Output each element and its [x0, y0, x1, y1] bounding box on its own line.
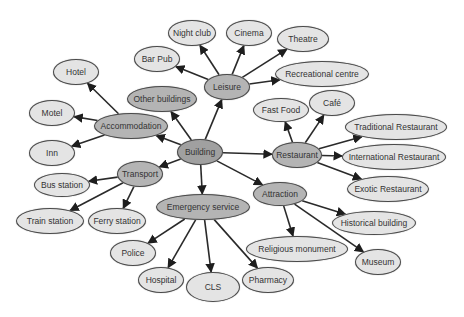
- node-label: Restaurant: [276, 150, 318, 160]
- edge-building-to-emergency-service: [201, 165, 203, 194]
- node-cinema[interactable]: Cinema: [226, 20, 272, 46]
- node-label: Hotel: [66, 67, 86, 77]
- node-label: Exotic Restaurant: [354, 184, 421, 194]
- node-other-buildings[interactable]: Other buildings: [127, 86, 197, 112]
- edge-restaurant-to-fast-food: [285, 122, 292, 142]
- node-label: Recreational centre: [285, 69, 359, 79]
- node-label: Cinema: [234, 28, 263, 38]
- building-taxonomy-diagram: BuildingLeisureOther buildingsAccommodat…: [0, 0, 464, 317]
- node-inn[interactable]: Inn: [29, 140, 75, 166]
- node-label: Accommodation: [101, 121, 162, 131]
- node-hotel[interactable]: Hotel: [53, 59, 99, 85]
- node-label: Religious monument: [258, 244, 335, 254]
- node-label: Museum: [362, 257, 395, 267]
- edge-emergency-service-to-police: [148, 219, 185, 243]
- node-religious-monument[interactable]: Religious monument: [246, 236, 348, 262]
- node-museum[interactable]: Museum: [355, 249, 401, 275]
- node-label: Ferry station: [93, 216, 140, 226]
- edge-building-to-attraction: [217, 161, 263, 185]
- edge-building-to-other-buildings: [171, 112, 191, 140]
- edge-accommodation-to-hotel: [87, 83, 118, 113]
- edge-accommodation-to-inn: [72, 135, 105, 146]
- node-label: Inn: [46, 148, 58, 158]
- node-bar-pub[interactable]: Bar Pub: [134, 46, 180, 72]
- edge-attraction-to-religious-monument: [284, 206, 293, 236]
- edge-building-to-accommodation: [156, 136, 181, 145]
- node-label: Pharmacy: [249, 275, 287, 285]
- edge-building-to-leisure: [205, 100, 221, 140]
- node-label: Other buildings: [133, 94, 190, 104]
- node-theatre[interactable]: Theatre: [277, 26, 329, 52]
- node-hospital[interactable]: Hospital: [138, 267, 184, 293]
- node-attraction[interactable]: Attraction: [253, 182, 307, 206]
- node-label: Traditional Restaurant: [354, 122, 437, 132]
- edge-emergency-service-to-cls: [205, 220, 212, 272]
- node-label: CLS: [205, 282, 222, 292]
- edge-building-to-transport: [159, 159, 180, 167]
- node-ferry-station[interactable]: Ferry station: [88, 208, 146, 234]
- edge-building-to-restaurant: [223, 153, 272, 155]
- node-pharmacy[interactable]: Pharmacy: [242, 267, 294, 293]
- edge-accommodation-to-motel: [74, 117, 97, 121]
- node-label: Fast Food: [262, 105, 300, 115]
- node-motel[interactable]: Motel: [29, 100, 75, 126]
- node-train-station[interactable]: Train station: [16, 208, 84, 234]
- edge-leisure-to-night-club: [200, 45, 219, 75]
- edge-transport-to-ferry-station: [123, 187, 134, 209]
- node-label: Hospital: [146, 275, 177, 285]
- node-label: Night club: [173, 28, 211, 38]
- node-label: International Restaurant: [349, 152, 440, 162]
- node-emergency-service[interactable]: Emergency service: [156, 194, 250, 220]
- node-police[interactable]: Police: [110, 240, 156, 266]
- node-label: Motel: [42, 108, 63, 118]
- node-night-club[interactable]: Night club: [168, 20, 216, 46]
- node-label: Building: [185, 147, 215, 157]
- edge-transport-to-bus-station: [89, 177, 118, 181]
- node-accommodation[interactable]: Accommodation: [94, 113, 168, 139]
- node-restaurant[interactable]: Restaurant: [272, 142, 322, 168]
- node-label: Transport: [122, 169, 158, 179]
- node-historical-building[interactable]: Historical building: [332, 211, 416, 235]
- node-cls[interactable]: CLS: [186, 272, 240, 302]
- node-international-restaurant[interactable]: International Restaurant: [342, 144, 446, 170]
- node-traditional-restaurant[interactable]: Traditional Restaurant: [345, 114, 447, 140]
- node-recreational-centre[interactable]: Recreational centre: [275, 61, 369, 87]
- edge-leisure-to-cinema: [232, 46, 244, 75]
- node-transport[interactable]: Transport: [117, 161, 163, 187]
- node-label: Emergency service: [167, 202, 239, 212]
- node-building[interactable]: Building: [177, 139, 223, 165]
- node-label: Police: [121, 248, 144, 258]
- node-label: Historical building: [341, 218, 408, 228]
- node-leisure[interactable]: Leisure: [204, 74, 250, 100]
- node-label: Theatre: [288, 34, 317, 44]
- edge-restaurant-to-cafe: [305, 115, 324, 143]
- node-label: Bus station: [41, 180, 83, 190]
- edge-attraction-to-historical-building: [302, 201, 345, 214]
- node-cafe[interactable]: Café: [309, 90, 355, 116]
- edge-leisure-to-bar-pub: [176, 67, 208, 80]
- node-label: Train station: [27, 216, 73, 226]
- node-label: Leisure: [213, 82, 241, 92]
- node-exotic-restaurant[interactable]: Exotic Restaurant: [347, 176, 429, 202]
- edge-restaurant-to-traditional-restaurant: [319, 137, 362, 149]
- edge-leisure-to-recreational-centre: [249, 80, 280, 84]
- node-label: Café: [323, 98, 341, 108]
- node-label: Bar Pub: [142, 54, 173, 64]
- node-bus-station[interactable]: Bus station: [34, 173, 90, 197]
- node-label: Attraction: [262, 189, 298, 199]
- node-fast-food[interactable]: Fast Food: [253, 98, 309, 122]
